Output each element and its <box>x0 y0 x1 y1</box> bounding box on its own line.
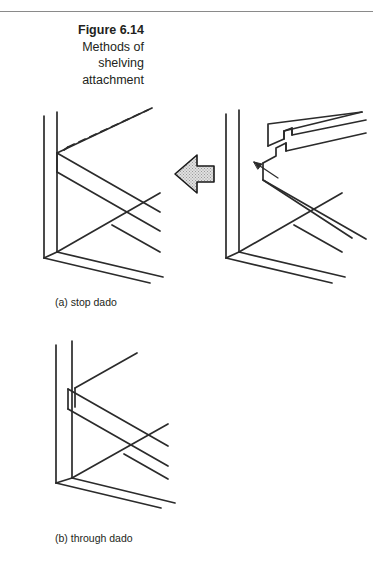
figure-title-line-2: shelving <box>16 55 144 72</box>
diagram-stop-dado-exploded <box>226 110 366 283</box>
diagram-through-dado <box>56 341 175 508</box>
panel-b-label: (b) through dado <box>55 532 133 545</box>
figure-page: Figure 6.14 Methods of shelving attachme… <box>0 0 373 577</box>
panel-a-label: (a) stop dado <box>55 296 117 309</box>
figure-caption: Figure 6.14 Methods of shelving attachme… <box>16 22 144 88</box>
figure-title-line-3: attachment <box>16 72 144 89</box>
diagram-stop-dado <box>44 108 163 283</box>
figure-title-line-1: Methods of <box>16 39 144 56</box>
assembly-direction-arrow <box>175 155 214 193</box>
figure-number: Figure 6.14 <box>16 22 144 39</box>
page-top-rule <box>0 11 373 12</box>
joint-callout-arrow <box>254 162 278 178</box>
